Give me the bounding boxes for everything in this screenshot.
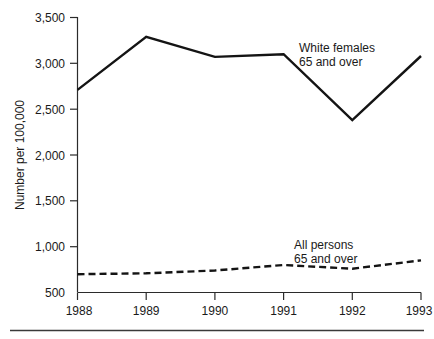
x-axis-label-1991: 1991 [270, 304, 297, 318]
x-axis-label-1992: 1992 [339, 304, 366, 318]
line-chart-figure: 3,500 3,000 2,500 2,000 1,500 1,000 500 … [0, 0, 434, 339]
annotation-all-persons-line1: All persons [294, 238, 353, 252]
y-axis-label-1000: 1,000 [35, 240, 65, 254]
annotation-white-females-line2: 65 and over [299, 55, 362, 69]
annotation-all-persons-line2: 65 and over [294, 252, 357, 266]
y-axis-label-2500: 2,500 [35, 103, 65, 117]
x-axis-label-1990: 1990 [202, 304, 229, 318]
y-axis-label-1500: 1,500 [35, 194, 65, 208]
x-axis-label-1993: 1993 [406, 304, 433, 318]
y-axis-label-3500: 3,500 [35, 11, 65, 25]
x-axis-label-1989: 1989 [133, 304, 160, 318]
annotation-white-females-line1: White females [299, 41, 375, 55]
x-axis-label-1988: 1988 [66, 304, 93, 318]
y-axis-label-3000: 3,000 [35, 57, 65, 71]
y-axis-label-500: 500 [45, 286, 65, 300]
y-axis-label-2000: 2,000 [35, 149, 65, 163]
y-axis-title: Number per 100,000 [13, 100, 27, 210]
